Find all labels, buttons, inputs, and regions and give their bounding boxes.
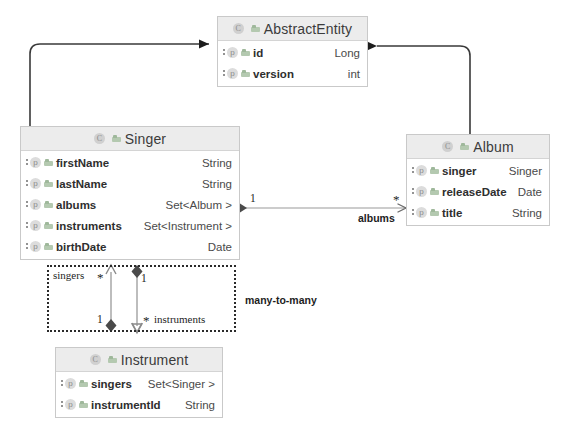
field-icon xyxy=(79,401,88,409)
attribute-type: String xyxy=(196,178,232,190)
visibility-icon xyxy=(251,25,260,33)
multiplicity-instruments-one: 1 xyxy=(141,272,147,284)
multiplicity-albums-one: 1 xyxy=(250,192,256,204)
class-icon: C xyxy=(90,354,101,365)
property-icon: p xyxy=(30,157,41,168)
property-icon: p xyxy=(227,47,238,58)
field-icon xyxy=(430,188,439,196)
attribute-type: Long xyxy=(328,47,360,59)
field-icon xyxy=(44,159,53,167)
visibility-icon xyxy=(108,356,117,364)
field-icon xyxy=(430,209,439,217)
attribute-row[interactable]: p version int xyxy=(218,63,367,84)
class-box-instrument[interactable]: C Instrument p singers Set<Singer > p in… xyxy=(55,347,223,418)
modifier-dots-icon xyxy=(26,220,29,231)
property-icon: p xyxy=(30,199,41,210)
class-header-instrument: C Instrument xyxy=(56,348,222,372)
attribute-name: id xyxy=(253,47,263,59)
attribute-name: singer xyxy=(442,165,477,177)
class-header-singer: C Singer xyxy=(21,127,239,151)
attribute-name: title xyxy=(442,207,462,219)
attribute-list-instrument: p singers Set<Singer > p instrumentId St… xyxy=(56,372,222,417)
class-icon: C xyxy=(442,141,453,152)
class-name-singer: Singer xyxy=(125,131,166,147)
property-icon: p xyxy=(65,399,76,410)
attribute-name: instrumentId xyxy=(91,399,161,411)
class-name-instrument: Instrument xyxy=(121,352,189,368)
field-icon xyxy=(241,49,250,57)
attribute-row[interactable]: p singers Set<Singer > xyxy=(56,373,222,394)
attribute-row[interactable]: p instrumentId String xyxy=(56,394,222,415)
attribute-name: lastName xyxy=(56,178,107,190)
modifier-dots-icon xyxy=(223,47,226,58)
field-icon xyxy=(79,380,88,388)
property-icon: p xyxy=(416,165,427,176)
class-icon: C xyxy=(94,133,105,144)
attribute-type: Set<Singer > xyxy=(142,378,215,390)
album-inheritance-arrowhead xyxy=(367,41,377,50)
attribute-type: Set<Instrument > xyxy=(138,220,232,232)
class-box-singer[interactable]: C Singer p firstName String p lastName S… xyxy=(20,126,240,260)
edge-album-extends-abstractentity xyxy=(377,46,470,134)
diagram-canvas: singers * 1 instruments 1 * many-to-many… xyxy=(0,0,567,427)
attribute-row[interactable]: p title String xyxy=(407,202,549,223)
class-icon: C xyxy=(233,23,244,34)
attribute-name: firstName xyxy=(56,157,109,169)
field-icon xyxy=(44,180,53,188)
multiplicity-singers-star: * xyxy=(97,274,104,282)
property-icon: p xyxy=(30,220,41,231)
modifier-dots-icon xyxy=(412,165,415,176)
class-box-abstractentity[interactable]: C AbstractEntity p id Long p version int xyxy=(217,16,368,87)
attribute-list-album: p singer Singer p releaseDate Date p tit… xyxy=(407,159,549,225)
class-name-abstractentity: AbstractEntity xyxy=(264,21,352,37)
property-icon: p xyxy=(416,207,427,218)
attribute-type: int xyxy=(342,68,360,80)
property-icon: p xyxy=(416,186,427,197)
class-header-album: C Album xyxy=(407,135,549,159)
property-icon: p xyxy=(30,178,41,189)
multiplicity-instruments-star: * xyxy=(143,317,150,325)
modifier-dots-icon xyxy=(26,241,29,252)
field-icon xyxy=(44,222,53,230)
attribute-name: releaseDate xyxy=(442,186,507,198)
modifier-dots-icon xyxy=(26,199,29,210)
attribute-row[interactable]: p lastName String xyxy=(21,173,239,194)
attribute-name: instruments xyxy=(56,220,122,232)
class-name-album: Album xyxy=(473,139,513,155)
attribute-row[interactable]: p birthDate Date xyxy=(21,236,239,257)
label-albums: albums xyxy=(358,212,395,224)
attribute-row[interactable]: p singer Singer xyxy=(407,160,549,181)
modifier-dots-icon xyxy=(61,399,64,410)
modifier-dots-icon xyxy=(412,186,415,197)
property-icon: p xyxy=(227,68,238,79)
multiplicity-albums-star: * xyxy=(393,196,400,204)
attribute-row[interactable]: p albums Set<Album > xyxy=(21,194,239,215)
attribute-type: Set<Album > xyxy=(160,199,232,211)
attribute-name: albums xyxy=(56,199,96,211)
label-singers: singers xyxy=(53,269,84,281)
attribute-type: Singer xyxy=(503,165,542,177)
attribute-type: String xyxy=(196,157,232,169)
field-icon xyxy=(44,243,53,251)
attribute-type: String xyxy=(179,399,215,411)
property-icon: p xyxy=(30,241,41,252)
class-header-abstractentity: C AbstractEntity xyxy=(218,17,367,41)
attribute-row[interactable]: p releaseDate Date xyxy=(407,181,549,202)
modifier-dots-icon xyxy=(61,378,64,389)
attribute-row[interactable]: p firstName String xyxy=(21,152,239,173)
attribute-row[interactable]: p id Long xyxy=(218,42,367,63)
attribute-type: Date xyxy=(512,186,542,198)
field-icon xyxy=(241,70,250,78)
attribute-row[interactable]: p instruments Set<Instrument > xyxy=(21,215,239,236)
attribute-type: String xyxy=(506,207,542,219)
visibility-icon xyxy=(460,143,469,151)
edge-singer-extends-abstractentity xyxy=(30,44,209,126)
label-instruments: instruments xyxy=(154,313,205,325)
class-box-album[interactable]: C Album p singer Singer p releaseDate Da… xyxy=(406,134,550,226)
attribute-name: birthDate xyxy=(56,241,106,253)
multiplicity-singers-one: 1 xyxy=(97,313,103,325)
modifier-dots-icon xyxy=(223,68,226,79)
label-many-to-many: many-to-many xyxy=(245,294,317,306)
modifier-dots-icon xyxy=(26,157,29,168)
field-icon xyxy=(430,167,439,175)
